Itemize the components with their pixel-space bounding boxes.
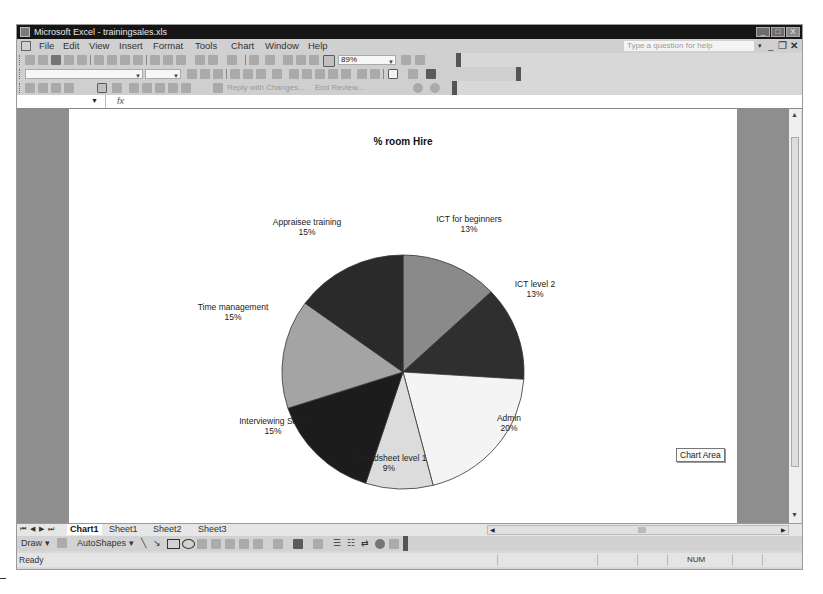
tab-sheet3[interactable]: Sheet3 — [198, 524, 227, 535]
previous-comment-icon[interactable] — [38, 83, 48, 93]
scroll-up-arrow-icon[interactable]: ▲ — [791, 111, 798, 118]
save-icon[interactable] — [51, 55, 61, 65]
underline-icon[interactable] — [213, 69, 223, 79]
copy-icon[interactable] — [163, 55, 173, 65]
scroll-right-arrow-icon[interactable]: ▶ — [781, 526, 786, 533]
send-to-recipient-icon[interactable] — [181, 83, 191, 93]
smiley-icon[interactable] — [413, 83, 423, 93]
autosum-icon[interactable] — [265, 55, 275, 65]
drawing-icon[interactable] — [323, 55, 335, 67]
permission-icon[interactable] — [64, 55, 74, 65]
line-icon[interactable]: ╲ — [141, 538, 146, 548]
smiley-icon[interactable] — [430, 83, 440, 93]
borders-icon[interactable] — [388, 69, 398, 79]
menu-chart[interactable]: Chart — [231, 39, 254, 53]
font-size-dropdown-icon[interactable]: ▼ — [173, 72, 179, 80]
3d-style-icon[interactable] — [389, 539, 399, 549]
print-icon[interactable] — [94, 55, 104, 65]
doc-close-button[interactable]: ✕ — [790, 39, 798, 53]
font-dropdown-icon[interactable]: ▼ — [135, 72, 141, 80]
insert-function-icon[interactable]: fx — [117, 96, 124, 106]
toolbar-grip[interactable] — [19, 83, 22, 93]
new-icon[interactable] — [25, 55, 35, 65]
vertical-scrollbar[interactable]: ▲ ▼ — [789, 109, 801, 523]
horizontal-scroll-thumb[interactable] — [638, 527, 646, 533]
vertical-scroll-thumb[interactable] — [791, 137, 799, 467]
toolbar-grip[interactable] — [19, 55, 22, 65]
chart-wizard-icon[interactable] — [309, 55, 319, 65]
increase-indent-icon[interactable] — [370, 69, 380, 79]
help-dropdown-icon[interactable]: ▾ — [758, 39, 762, 53]
align-center-icon[interactable] — [243, 69, 253, 79]
menu-insert[interactable]: Insert — [119, 39, 143, 53]
select-objects-icon[interactable] — [57, 538, 67, 548]
insert-picture-icon[interactable] — [253, 539, 263, 549]
font-color-icon[interactable] — [426, 69, 436, 79]
doc-restore-button[interactable]: ❐ — [778, 39, 787, 53]
show-comment-icon[interactable] — [64, 83, 74, 93]
cut-icon[interactable] — [150, 55, 160, 65]
undo-icon[interactable] — [208, 55, 218, 65]
tab-chart1[interactable]: Chart1 — [67, 524, 102, 535]
doc-minimize-button[interactable]: _ — [768, 39, 773, 53]
data-label-spreadsheet-level-1[interactable]: Spreadsheet level 1 9% — [329, 453, 449, 473]
create-task-icon[interactable] — [155, 83, 165, 93]
menu-window[interactable]: Window — [265, 39, 299, 53]
update-file-icon[interactable] — [168, 83, 178, 93]
redo-icon[interactable] — [227, 55, 237, 65]
tab-sheet1[interactable]: Sheet1 — [109, 524, 138, 535]
arrow-icon[interactable]: ↘ — [153, 538, 161, 548]
dash-style-icon[interactable]: ☷ — [347, 538, 355, 548]
reply-with-changes-button[interactable]: Reply with Changes... — [227, 83, 305, 92]
font-size-combo[interactable]: ▼ — [145, 69, 181, 79]
document-icon[interactable] — [21, 41, 31, 51]
comma-style-icon[interactable] — [315, 69, 325, 79]
help-icon[interactable] — [401, 55, 411, 65]
increase-decimal-icon[interactable] — [328, 69, 338, 79]
merge-center-icon[interactable] — [272, 69, 282, 79]
data-label-appraisee-training[interactable]: Appraisee training 15% — [247, 217, 367, 237]
font-color-icon[interactable] — [313, 539, 323, 549]
data-label-interviewing-skills[interactable]: Interviewing Skills 15% — [213, 416, 333, 436]
font-name-combo[interactable]: ▼ — [25, 69, 143, 79]
decrease-decimal-icon[interactable] — [341, 69, 351, 79]
shadow-style-icon[interactable] — [375, 539, 385, 549]
paste-icon[interactable] — [176, 55, 186, 65]
chart-area[interactable]: % room Hire ICT for beginners 13% ICT le… — [69, 109, 737, 523]
data-label-admin[interactable]: Admin 20% — [469, 413, 549, 433]
open-icon[interactable] — [38, 55, 48, 65]
next-comment-icon[interactable] — [51, 83, 61, 93]
first-sheet-icon[interactable]: ⏮ — [20, 525, 26, 533]
spelling-icon[interactable] — [120, 55, 130, 65]
name-box[interactable]: ▼ — [17, 95, 106, 108]
delete-comment-icon[interactable] — [129, 83, 139, 93]
bold-icon[interactable] — [187, 69, 197, 79]
line-color-icon[interactable] — [293, 539, 303, 549]
show-all-comments-icon[interactable] — [112, 83, 122, 93]
scroll-left-arrow-icon[interactable]: ◀ — [490, 526, 495, 533]
hyperlink-icon[interactable] — [249, 55, 259, 65]
name-box-dropdown-icon[interactable]: ▼ — [91, 97, 98, 104]
oval-icon[interactable] — [182, 539, 195, 549]
sort-ascending-icon[interactable] — [283, 55, 293, 65]
tab-sheet2[interactable]: Sheet2 — [153, 524, 182, 535]
menu-tools[interactable]: Tools — [195, 39, 217, 53]
textbox-icon[interactable] — [197, 539, 207, 549]
rectangle-icon[interactable] — [167, 539, 180, 549]
toolbar-options-chevron[interactable] — [516, 67, 521, 81]
data-label-ict-for-beginners[interactable]: ICT for beginners 13% — [409, 214, 529, 234]
data-label-time-management[interactable]: Time management 15% — [173, 302, 293, 322]
italic-icon[interactable] — [200, 69, 210, 79]
zoom-combo[interactable]: 89%▼ — [338, 55, 396, 65]
toolbar-options-chevron[interactable] — [452, 81, 457, 95]
maximize-button[interactable]: □ — [771, 27, 785, 37]
ink-annotations-icon[interactable] — [142, 83, 152, 93]
close-button[interactable]: X — [786, 27, 800, 37]
research-icon[interactable] — [133, 55, 143, 65]
autoshapes-menu-button[interactable]: AutoShapes ▾ — [77, 538, 134, 548]
fill-color-icon[interactable] — [408, 69, 418, 79]
currency-icon[interactable] — [289, 69, 299, 79]
sort-descending-icon[interactable] — [296, 55, 306, 65]
last-sheet-icon[interactable]: ⏭ — [48, 525, 54, 533]
align-left-icon[interactable] — [230, 69, 240, 79]
